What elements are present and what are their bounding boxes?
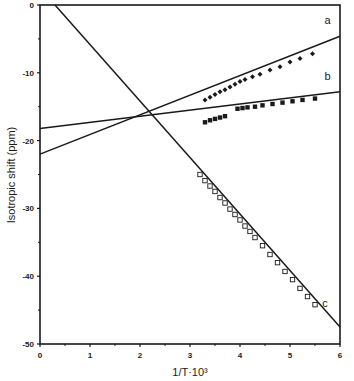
y-tick-label: -50 xyxy=(22,340,34,349)
data-point-a xyxy=(243,77,248,82)
series-label-c: c xyxy=(322,297,328,309)
fit-line-a xyxy=(40,36,340,154)
data-point-b xyxy=(235,107,239,111)
data-point-c xyxy=(260,243,264,247)
data-point-c xyxy=(198,172,202,176)
x-axis-title: 1/T·10³ xyxy=(172,366,208,378)
data-point-b xyxy=(213,117,217,121)
data-point-a xyxy=(310,51,315,56)
x-tick-label: 5 xyxy=(288,351,293,360)
data-point-c xyxy=(243,224,247,228)
data-point-c xyxy=(305,294,309,298)
data-point-b xyxy=(203,120,207,124)
data-point-c xyxy=(203,178,207,182)
y-tick-label: -30 xyxy=(22,204,34,213)
data-point-a xyxy=(268,68,273,73)
data-point-b xyxy=(245,105,249,109)
data-point-a xyxy=(278,64,283,69)
data-point-b xyxy=(240,106,244,110)
y-tick-label: -20 xyxy=(22,137,34,146)
data-point-a xyxy=(218,89,223,94)
data-point-b xyxy=(270,102,274,106)
data-point-c xyxy=(253,235,257,239)
data-point-c xyxy=(298,286,302,290)
data-point-c xyxy=(213,189,217,193)
y-tick-label: -10 xyxy=(22,69,34,78)
x-tick-label: 0 xyxy=(38,351,43,360)
y-tick-label: -40 xyxy=(22,272,34,281)
data-point-b xyxy=(218,115,222,119)
y-tick-label: 0 xyxy=(30,1,35,10)
data-point-c xyxy=(248,229,252,233)
data-point-c xyxy=(268,252,272,256)
x-tick-label: 1 xyxy=(88,351,93,360)
data-point-b xyxy=(253,105,257,109)
data-point-a xyxy=(233,82,238,87)
data-point-c xyxy=(223,201,227,205)
data-points xyxy=(198,51,317,307)
series-labels: abc xyxy=(322,14,331,309)
data-point-b xyxy=(280,100,284,104)
y-axis-title: Isotropic shift (ppm) xyxy=(5,127,17,224)
data-point-b xyxy=(300,98,304,102)
axis-ticks: 01234560-10-20-30-40-50 xyxy=(22,1,342,360)
x-tick-label: 2 xyxy=(138,351,143,360)
data-point-a xyxy=(250,74,255,79)
data-point-c xyxy=(228,207,232,211)
data-point-c xyxy=(218,195,222,199)
data-point-b xyxy=(223,114,227,118)
data-point-b xyxy=(290,99,294,103)
plot-border xyxy=(40,5,340,344)
series-label-a: a xyxy=(324,14,331,26)
isotropic-shift-chart: 01234560-10-20-30-40-50 abc 1/T·10³ Isot… xyxy=(0,0,354,381)
data-point-c xyxy=(275,260,279,264)
data-point-a xyxy=(208,95,213,100)
x-tick-label: 4 xyxy=(238,351,243,360)
data-point-b xyxy=(260,103,264,107)
x-tick-label: 6 xyxy=(338,351,343,360)
data-point-c xyxy=(313,302,317,306)
data-point-a xyxy=(228,85,233,90)
data-point-c xyxy=(233,212,237,216)
plot-frame xyxy=(40,5,340,344)
data-point-c xyxy=(238,218,242,222)
data-point-a xyxy=(288,59,293,64)
data-point-b xyxy=(313,96,317,100)
data-point-a xyxy=(213,92,218,97)
series-label-b: b xyxy=(324,70,330,82)
data-point-c xyxy=(283,269,287,273)
data-point-a xyxy=(238,79,243,84)
data-point-a xyxy=(298,56,303,61)
data-point-a xyxy=(203,97,208,102)
data-point-c xyxy=(208,184,212,188)
data-point-c xyxy=(290,277,294,281)
data-point-a xyxy=(258,72,263,77)
x-tick-label: 3 xyxy=(188,351,193,360)
data-point-b xyxy=(208,118,212,122)
data-point-a xyxy=(223,87,228,92)
fit-line-b xyxy=(40,92,340,129)
